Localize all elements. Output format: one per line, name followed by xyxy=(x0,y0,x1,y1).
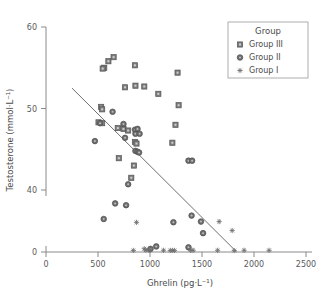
regression-line xyxy=(72,88,236,251)
data-point-circle-center xyxy=(94,140,96,142)
data-point-square-center xyxy=(124,86,126,88)
data-point-circle-center xyxy=(134,133,136,135)
data-point-square-center xyxy=(239,44,241,46)
legend-item-label: Group I xyxy=(249,66,278,75)
data-point-circle-center xyxy=(114,202,116,204)
data-point-square-center xyxy=(113,56,115,58)
x-axis-title: Ghrelin (pg·L⁻¹) xyxy=(147,278,213,288)
data-point-square-center xyxy=(107,60,109,62)
legend-item-label: Group III xyxy=(249,40,283,49)
y-tick-label: 40 xyxy=(27,186,37,195)
data-point-circle-center xyxy=(122,123,124,125)
data-point-square-center xyxy=(130,177,132,179)
data-point-square-center xyxy=(102,68,104,70)
data-point-circle-center xyxy=(191,215,193,217)
x-tick-label: 500 xyxy=(90,260,105,269)
data-point-square-center xyxy=(122,128,124,130)
data-point-square-center xyxy=(157,93,159,95)
data-point-circle-center xyxy=(191,160,193,162)
data-point-circle-center xyxy=(200,221,202,223)
data-point-circle-center xyxy=(187,246,189,248)
x-tick-label: 1000 xyxy=(140,260,160,269)
data-point-square-center xyxy=(177,72,179,74)
legend: GroupGroup IIIGroup IIGroup I xyxy=(228,22,308,78)
y-axis-title: Testosterone (mmol·L⁻¹) xyxy=(5,89,15,193)
series-group-iii xyxy=(96,55,181,181)
data-point-circle-center xyxy=(137,128,139,130)
y-tick-label: 60 xyxy=(27,23,37,32)
data-point-square-center xyxy=(171,142,173,144)
x-tick-label: 2500 xyxy=(296,260,316,269)
data-point-square-center xyxy=(117,127,119,129)
y-tick-label: 50 xyxy=(27,105,37,114)
data-point-square-center xyxy=(134,85,136,87)
data-point-circle-center xyxy=(125,204,127,206)
x-tick-label: 2000 xyxy=(244,260,264,269)
chart-canvas: 050010001500200025000405060Ghrelin (pg·L… xyxy=(0,0,324,301)
data-point-circle-center xyxy=(202,232,204,234)
legend-title: Group xyxy=(255,26,281,36)
data-point-circle-center xyxy=(155,245,157,247)
x-tick-label: 1500 xyxy=(192,260,212,269)
data-point-square-center xyxy=(127,130,129,132)
data-point-circle-center xyxy=(99,122,101,124)
data-point-circle-center xyxy=(103,218,105,220)
data-point-square-center xyxy=(174,124,176,126)
data-point-circle-center xyxy=(124,137,126,139)
data-point-square-center xyxy=(133,165,135,167)
data-point-circle-center xyxy=(127,183,129,185)
data-point-square-center xyxy=(134,64,136,66)
data-point-square-center xyxy=(101,108,103,110)
data-point-square-center xyxy=(143,85,145,87)
x-tick-label: 0 xyxy=(43,260,48,269)
legend-item-label: Group II xyxy=(249,53,281,62)
y-tick-label: 0 xyxy=(32,248,37,257)
data-point-square-center xyxy=(135,143,137,145)
data-point-circle-center xyxy=(139,133,141,135)
data-point-circle-center xyxy=(138,152,140,154)
data-point-square-center xyxy=(118,157,120,159)
data-point-circle-center xyxy=(239,57,241,59)
data-point-square-center xyxy=(178,104,180,106)
series-group-ii xyxy=(92,109,206,252)
data-point-circle-center xyxy=(172,221,174,223)
scatter-chart: 050010001500200025000405060Ghrelin (pg·L… xyxy=(0,0,324,301)
data-point-circle-center xyxy=(112,111,114,113)
